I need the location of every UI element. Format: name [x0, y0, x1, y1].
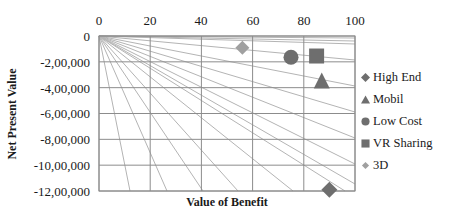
legend-item-vr-sharing: VR Sharing [361, 132, 432, 154]
marker-3d [235, 41, 249, 55]
y-tick-4l: -4,00,000 [40, 81, 90, 96]
marker-vr-sharing [309, 49, 324, 64]
square-icon [361, 139, 370, 148]
fan-line [99, 36, 355, 112]
triangle-icon [361, 95, 370, 104]
marker-low-cost [284, 50, 299, 65]
x-tick-60: 60 [247, 13, 260, 28]
x-tick-0: 0 [96, 13, 103, 28]
x-tick-40: 40 [195, 13, 208, 28]
legend-item-high-end: High End [361, 66, 432, 88]
x-axis-title: Value of Benefit [186, 195, 268, 209]
legend-item-3d: 3D [361, 154, 432, 176]
y-tick-12l: -12,00,000 [34, 184, 90, 199]
circle-icon [361, 117, 370, 126]
y-tick-0: 0 [84, 29, 91, 44]
y-tick-10l: -10,00,000 [34, 158, 90, 173]
x-tick-20: 20 [144, 13, 157, 28]
legend-label: 3D [373, 158, 388, 173]
diamond-icon [361, 161, 370, 170]
y-axis-title: Net Present Value [5, 68, 19, 160]
y-tick-8l: -8,00,000 [40, 132, 90, 147]
y-tick-2l: -2,00,000 [40, 55, 90, 70]
legend-label: Low Cost [373, 114, 422, 129]
legend-label: Mobil [373, 92, 404, 107]
y-tick-6l: -6,00,000 [40, 106, 90, 121]
legend-label: VR Sharing [373, 136, 432, 151]
x-tick-100: 100 [345, 13, 365, 28]
legend-item-mobil: Mobil [361, 88, 432, 110]
legend-label: High End [373, 70, 421, 85]
data-points [235, 41, 337, 198]
legend: High End Mobil Low Cost VR Sharing 3D [361, 66, 432, 176]
diamond-icon [361, 73, 370, 82]
legend-item-low-cost: Low Cost [361, 110, 432, 132]
x-tick-80: 80 [298, 13, 311, 28]
